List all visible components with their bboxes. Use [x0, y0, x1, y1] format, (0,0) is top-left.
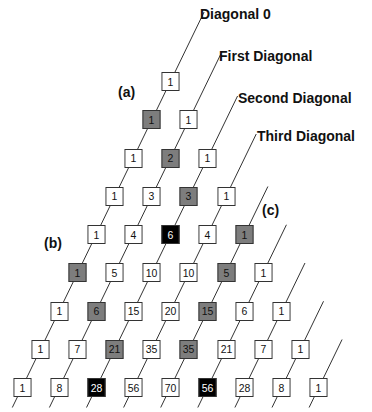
cell-r4-c1: 4 — [124, 225, 142, 244]
cell-r4-c3: 4 — [198, 225, 216, 244]
cell-r8-c7: 8 — [273, 378, 291, 397]
cell-r7-c4: 35 — [180, 340, 198, 359]
pascals-triangle-diagram: 1111211331146411510105116152015611721353… — [0, 0, 372, 412]
cell-r5-c3: 10 — [180, 263, 198, 282]
cell-r7-c1: 7 — [69, 340, 87, 359]
cell-r5-c1: 5 — [106, 263, 124, 282]
cell-r7-c5: 21 — [217, 340, 235, 359]
diagonal-label-0: Diagonal 0 — [200, 6, 271, 22]
cell-r6-c6: 1 — [273, 302, 291, 321]
cell-r5-c0: 1 — [69, 263, 87, 282]
cell-r2-c1: 2 — [161, 149, 179, 168]
region-label-b: (b) — [44, 235, 62, 251]
cell-r3-c0: 1 — [106, 187, 124, 206]
cell-r4-c0: 1 — [87, 225, 105, 244]
cell-r5-c4: 5 — [217, 263, 235, 282]
diagonal-2-line — [87, 96, 238, 408]
cell-r8-c3: 56 — [124, 378, 142, 397]
cell-r3-c1: 3 — [143, 187, 161, 206]
cell-r7-c7: 1 — [291, 340, 309, 359]
cell-r2-c0: 1 — [124, 149, 142, 168]
cell-r4-c2: 6 — [161, 225, 179, 244]
diagonal-label-3: Third Diagonal — [257, 128, 355, 144]
cell-r7-c0: 1 — [32, 340, 50, 359]
diagonal-8-line — [309, 340, 342, 408]
cell-r5-c2: 10 — [143, 263, 161, 282]
cell-r7-c3: 35 — [143, 340, 161, 359]
cell-r4-c4: 1 — [236, 225, 254, 244]
cell-r8-c6: 28 — [236, 378, 254, 397]
diagonal-label-2: Second Diagonal — [238, 90, 352, 106]
cell-r0-c0: 1 — [161, 72, 179, 91]
region-label-c: (c) — [262, 202, 279, 218]
region-label-a: (a) — [118, 84, 135, 100]
cell-r8-c1: 8 — [50, 378, 68, 397]
cell-r3-c2: 3 — [180, 187, 198, 206]
cell-r8-c2: 28 — [87, 378, 105, 397]
cell-r5-c5: 1 — [254, 263, 272, 282]
cell-r3-c3: 1 — [217, 187, 235, 206]
cell-r7-c2: 21 — [106, 340, 124, 359]
cell-r6-c3: 20 — [161, 302, 179, 321]
cell-r1-c0: 1 — [143, 110, 161, 129]
cell-r7-c6: 7 — [254, 340, 272, 359]
cell-r8-c5: 56 — [198, 378, 216, 397]
cell-r8-c4: 70 — [161, 378, 179, 397]
cell-r2-c2: 1 — [198, 149, 216, 168]
cell-r8-c8: 1 — [310, 378, 328, 397]
cell-r6-c1: 6 — [87, 302, 105, 321]
diagonal-label-1: First Diagonal — [219, 48, 312, 64]
cell-r6-c5: 6 — [236, 302, 254, 321]
cell-r8-c0: 1 — [13, 378, 31, 397]
cell-r6-c0: 1 — [50, 302, 68, 321]
cell-r6-c4: 15 — [198, 302, 216, 321]
cell-r6-c2: 15 — [124, 302, 142, 321]
cell-r1-c1: 1 — [180, 110, 198, 129]
